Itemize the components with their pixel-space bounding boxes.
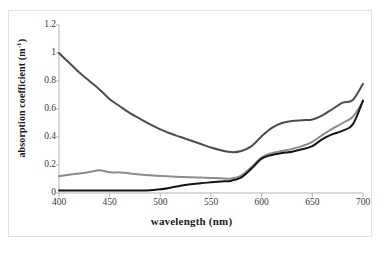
series-upper-curve [59, 53, 363, 152]
x-axis-label: wavelength (nm) [0, 215, 383, 227]
chart-figure: absorption coefficient (m-1) 00.20.40.60… [0, 0, 383, 253]
series-middle-curve [59, 101, 363, 178]
